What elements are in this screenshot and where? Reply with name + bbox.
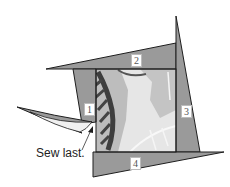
strip-2-label: 2 <box>131 54 142 67</box>
strip-3-label: 3 <box>181 105 192 118</box>
quilt-diagram <box>0 0 230 187</box>
strip-4 <box>93 152 224 177</box>
strip-4-label: 4 <box>130 157 141 170</box>
sew-last-annotation: Sew last. <box>36 146 85 160</box>
center-square <box>92 69 176 152</box>
strip-3 <box>176 16 200 152</box>
strip-2 <box>46 43 176 69</box>
strip-1-label: 1 <box>84 103 95 116</box>
